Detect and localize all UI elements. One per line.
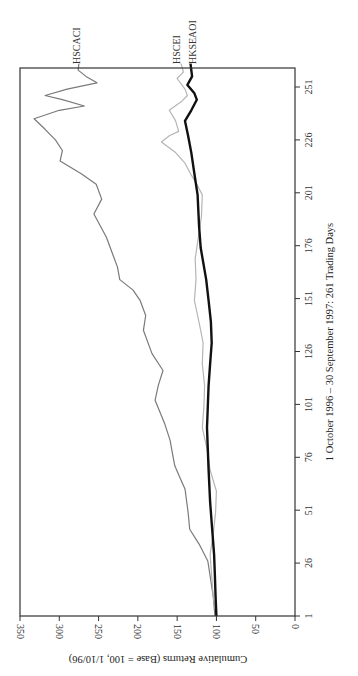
series-label-hkseaoi: HKSEAOI <box>187 20 198 64</box>
line-chart: 050100150200250300350 126517610112615117… <box>0 0 358 676</box>
plot-frame <box>20 68 295 616</box>
series-line-hscaci <box>34 64 215 616</box>
x-tick-label: 126 <box>303 344 314 359</box>
x-tick-label: 251 <box>303 80 314 95</box>
x-tick-label: 1 <box>303 614 314 619</box>
y-tick-label: 300 <box>54 624 65 639</box>
y-tick-label: 100 <box>211 624 222 639</box>
y-tick-label: 200 <box>132 624 143 639</box>
x-tick-label: 176 <box>303 238 314 253</box>
x-tick-label: 26 <box>303 558 314 568</box>
x-axis-title: 1 October 1996 – 30 September 1997: 261 … <box>324 223 335 461</box>
x-tick-label: 151 <box>303 291 314 306</box>
y-tick-label: 50 <box>250 624 261 634</box>
x-tick-label: 51 <box>303 505 314 515</box>
series-line-hkseaoi <box>185 64 216 616</box>
series-labels: HSCACIHSCEIHKSEAOI <box>71 20 198 64</box>
x-axis-ticks: 1265176101126151176201226251 <box>295 80 314 619</box>
x-tick-label: 76 <box>303 452 314 462</box>
plot-lines <box>34 64 216 616</box>
y-tick-label: 0 <box>290 624 301 629</box>
x-tick-label: 201 <box>303 185 314 200</box>
x-tick-label: 226 <box>303 132 314 147</box>
series-label-hscaci: HSCACI <box>71 27 82 64</box>
y-axis-ticks: 050100150200250300350 <box>15 616 301 639</box>
y-axis-title: Cumulative Returns (Base = 100, 1/10/96) <box>68 653 247 665</box>
series-line-hscei <box>161 64 216 616</box>
y-tick-label: 150 <box>172 624 183 639</box>
y-tick-label: 250 <box>93 624 104 639</box>
series-label-hscei: HSCEI <box>171 35 182 64</box>
x-tick-label: 101 <box>303 397 314 412</box>
y-tick-label: 350 <box>15 624 26 639</box>
